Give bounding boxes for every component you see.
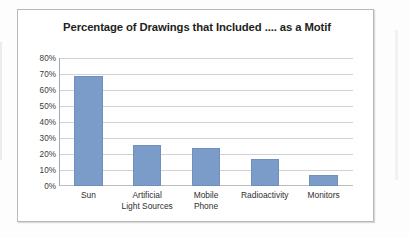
- bar: [74, 76, 102, 186]
- plot-region: 80%70%60%50%40%30%20%10%0% SunArtificial…: [18, 58, 373, 221]
- y-axis-tick-label: 50%: [18, 102, 56, 111]
- x-axis-category-label: Radioactivity: [235, 190, 294, 212]
- y-axis-tick-label: 70%: [18, 70, 56, 79]
- bar: [192, 148, 220, 186]
- plot-area: [59, 58, 353, 186]
- y-axis-tick-label: 20%: [18, 150, 56, 159]
- y-axis: 80%70%60%50%40%30%20%10%0%: [18, 58, 56, 186]
- bar-slot: [235, 58, 294, 186]
- y-axis-tick-label: 60%: [18, 86, 56, 95]
- bar-series: [59, 58, 353, 186]
- bar: [133, 145, 161, 186]
- y-axis-tick-label: 30%: [18, 134, 56, 143]
- x-axis-category-label: Monitors: [294, 190, 353, 212]
- scanned-page: Percentage of Drawings that Included ...…: [0, 0, 409, 238]
- bar-slot: [294, 58, 353, 186]
- bar: [251, 159, 279, 186]
- chart-frame: Percentage of Drawings that Included ...…: [17, 9, 374, 222]
- bar-slot: [118, 58, 177, 186]
- x-axis-category-label: Sun: [59, 190, 118, 212]
- y-axis-tick-label: 10%: [18, 166, 56, 175]
- bar: [309, 175, 337, 186]
- y-axis-tick-label: 40%: [18, 118, 56, 127]
- x-axis-category-label: Artificial Light Sources: [118, 190, 177, 212]
- bar-slot: [59, 58, 118, 186]
- y-axis-tick-label: 0%: [18, 182, 56, 191]
- x-axis-category-label: Mobile Phone: [177, 190, 236, 212]
- bar-slot: [177, 58, 236, 186]
- x-axis: SunArtificial Light SourcesMobile PhoneR…: [59, 190, 353, 212]
- chart-title: Percentage of Drawings that Included ...…: [36, 20, 358, 35]
- y-axis-tick-label: 80%: [18, 54, 56, 63]
- scan-artifact-left: [0, 42, 2, 160]
- scan-artifact-right: [395, 30, 398, 180]
